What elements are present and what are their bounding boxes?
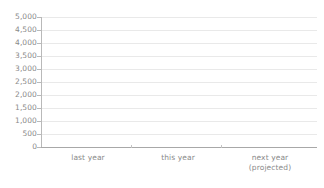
y-axis-tick	[37, 17, 41, 18]
x-axis-tick	[221, 145, 222, 148]
gridline	[41, 95, 317, 96]
gridline	[41, 82, 317, 83]
gridline	[41, 30, 317, 31]
y-axis-line	[41, 17, 42, 148]
gridline	[41, 43, 317, 44]
y-axis-tick	[37, 56, 41, 57]
gridline	[41, 121, 317, 122]
y-axis-label-1500: 1,500	[15, 104, 37, 112]
x-axis-label-last-year: last year	[40, 153, 136, 163]
plot-area	[41, 17, 317, 147]
y-axis-label-3500: 3,500	[15, 52, 37, 60]
y-axis-label-2500: 2,500	[15, 78, 37, 86]
y-axis-tick	[37, 134, 41, 135]
chart-container: 5,000 4,500 4,000 3,500 3,000 2,500 2,00…	[0, 0, 324, 188]
y-axis-tick	[37, 121, 41, 122]
x-axis-label-next-year-projected: next year (projected)	[222, 153, 318, 173]
gridline	[41, 69, 317, 70]
y-axis-tick	[37, 69, 41, 70]
y-axis-tick	[37, 82, 41, 83]
gridline	[41, 17, 317, 18]
y-axis-label-5000: 5,000	[15, 13, 37, 21]
x-axis-label-this-year: this year	[130, 153, 226, 163]
y-axis-tick	[37, 30, 41, 31]
y-axis-label-4500: 4,500	[15, 26, 37, 34]
x-axis-line	[41, 147, 317, 148]
y-axis-label-1000: 1,000	[15, 117, 37, 125]
y-axis-tick	[37, 108, 41, 109]
x-axis-tick	[131, 145, 132, 148]
y-axis-label-3000: 3,000	[15, 65, 37, 73]
gridline	[41, 56, 317, 57]
y-axis-label-4000: 4,000	[15, 39, 37, 47]
y-axis-tick	[37, 147, 41, 148]
y-axis-label-500: 500	[22, 130, 37, 138]
y-axis-tick	[37, 43, 41, 44]
y-axis-label-2000: 2,000	[15, 91, 37, 99]
y-axis-tick	[37, 95, 41, 96]
gridline	[41, 108, 317, 109]
y-axis-label-0: 0	[32, 143, 37, 151]
gridline	[41, 134, 317, 135]
